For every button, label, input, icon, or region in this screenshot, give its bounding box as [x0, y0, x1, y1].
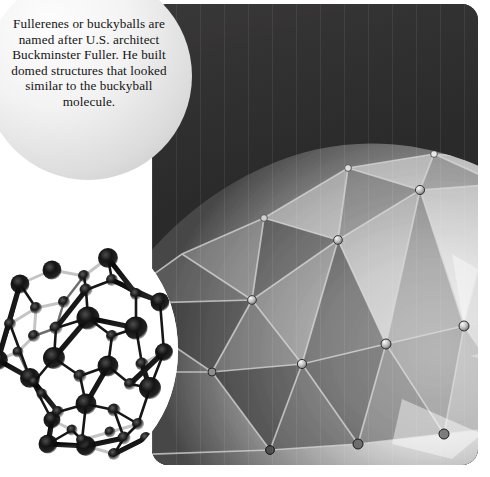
geodesic-dome-photo [152, 4, 478, 465]
fact-callout-inner: Fullerenes or buckyballs are named after… [0, 0, 192, 180]
dome-illustration [152, 4, 478, 465]
page-canvas: Fullerenes or buckyballs are named after… [0, 0, 490, 477]
fact-callout-circle: Fullerenes or buckyballs are named after… [0, 0, 192, 180]
fact-callout-text: Fullerenes or buckyballs are named after… [4, 16, 174, 110]
